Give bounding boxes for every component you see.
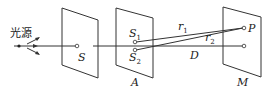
label-r2: r2 [205, 32, 215, 46]
label-r1: r1 [178, 21, 188, 35]
screen-m [223, 7, 261, 77]
label-s: S [78, 52, 86, 63]
point-o [242, 44, 246, 48]
label-a: A [131, 77, 139, 88]
label-s2: S2 [129, 52, 141, 66]
label-s1: S1 [129, 28, 141, 42]
label-p: P [248, 23, 255, 34]
label-m: M [237, 77, 248, 88]
slit-s [75, 44, 79, 48]
plate-s [62, 8, 98, 78]
arrowhead-right-icon [33, 44, 38, 48]
source-label: 光源 [10, 28, 32, 39]
label-d: D [190, 50, 199, 61]
ray-r2 [136, 28, 243, 50]
arrowhead-down-icon [35, 51, 40, 55]
ray-r1 [136, 28, 243, 42]
double-slit-diagram: 光源 S S1 S2 r1 r2 P D A M [0, 0, 271, 92]
point-p [242, 26, 246, 30]
arrowhead-up-icon [35, 37, 40, 41]
source-dot [17, 44, 20, 47]
